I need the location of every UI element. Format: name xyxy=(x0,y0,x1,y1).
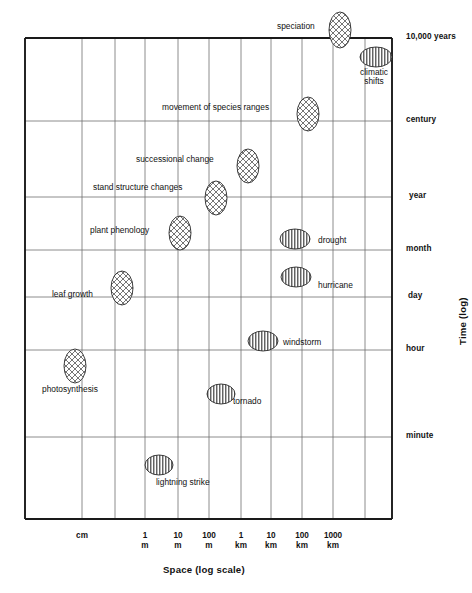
ytick-month: month xyxy=(406,245,432,254)
ytick-century: century xyxy=(406,116,436,125)
label-tornado: tornado xyxy=(233,397,261,406)
ellipse-drought[interactable] xyxy=(280,229,310,249)
ellipse-climatic-shifts[interactable] xyxy=(360,47,392,67)
y-axis-title: Time (log) xyxy=(458,297,468,345)
label-windstorm: windstorm xyxy=(283,338,321,347)
xtick-10-km-value: 10 xyxy=(266,531,275,540)
xtick-1000-km-unit: km xyxy=(327,541,339,550)
label-leaf-growth: leaf growth xyxy=(52,290,93,299)
xtick-10-km-unit: km xyxy=(265,541,277,550)
xtick-1-km-unit: km xyxy=(235,541,247,550)
ellipse-plant-phenology[interactable] xyxy=(169,216,191,250)
ellipse-photosynthesis[interactable] xyxy=(64,349,86,383)
label-movement-of-species-ranges: movement of species ranges xyxy=(162,103,269,112)
ellipse-stand-structure-changes[interactable] xyxy=(205,181,227,215)
label-lightning-strike: lightning strike xyxy=(156,478,210,487)
ellipse-tornado[interactable] xyxy=(207,384,235,404)
xtick-100-m-unit: m xyxy=(205,541,212,550)
xtick-10-m-unit: m xyxy=(174,541,181,550)
label-stand-structure-changes: stand structure changes xyxy=(93,183,182,192)
xtick-1-m-unit: m xyxy=(141,541,148,550)
ellipse-speciation[interactable] xyxy=(329,12,351,48)
ellipse-successional-change[interactable] xyxy=(237,149,259,183)
xtick-1000-km: 1000 km xyxy=(318,531,348,552)
ytick-minute: minute xyxy=(406,432,433,441)
xtick-100-km-unit: km xyxy=(296,541,308,550)
ytick-hour: hour xyxy=(406,345,425,354)
ellipse-lightning-strike[interactable] xyxy=(145,455,173,475)
figure-root: speciation climatic shifts movement of s… xyxy=(0,0,472,593)
ellipse-movement-of-species-ranges[interactable] xyxy=(297,97,319,131)
label-successional-change: successional change xyxy=(136,155,214,164)
label-photosynthesis: photosynthesis xyxy=(42,385,98,394)
ellipse-windstorm[interactable] xyxy=(248,331,278,351)
label-climatic-shifts: climatic shifts xyxy=(347,68,401,87)
ytick-10000-years: 10,000 years xyxy=(406,33,456,42)
label-climatic-shifts-line2: shifts xyxy=(364,76,384,86)
x-axis-title: Space (log scale) xyxy=(163,565,245,575)
label-drought: drought xyxy=(318,236,346,245)
ellipse-leaf-growth[interactable] xyxy=(111,271,133,305)
ytick-year: year xyxy=(409,192,426,201)
ytick-day: day xyxy=(408,292,422,301)
xtick-100-km: 100 km xyxy=(287,531,317,552)
xtick-100-m: 100 m xyxy=(194,531,224,552)
xtick-100-m-value: 100 xyxy=(202,531,216,540)
xtick-cm: cm xyxy=(67,531,97,541)
xtick-1-km-value: 1 xyxy=(239,531,244,540)
xtick-1000-km-value: 1000 xyxy=(324,531,342,540)
xtick-1-m-value: 1 xyxy=(143,531,148,540)
xtick-10-m-value: 10 xyxy=(173,531,182,540)
ellipse-hurricane[interactable] xyxy=(281,267,311,287)
label-plant-phenology: plant phenology xyxy=(90,226,149,235)
xtick-1-km: 1 km xyxy=(226,531,256,552)
xtick-10-km: 10 km xyxy=(256,531,286,552)
label-speciation: speciation xyxy=(277,22,315,31)
xtick-100-km-value: 100 xyxy=(295,531,309,540)
xtick-1-m: 1 m xyxy=(130,531,160,552)
xtick-10-m: 10 m xyxy=(163,531,193,552)
label-hurricane: hurricane xyxy=(318,281,353,290)
